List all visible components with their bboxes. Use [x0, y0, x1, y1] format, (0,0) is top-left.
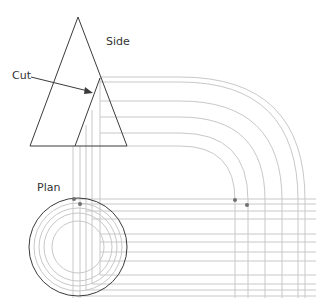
construction-lines — [34, 77, 316, 298]
label-side: Side — [106, 35, 130, 48]
cut-section — [75, 78, 100, 146]
dot-plan-1 — [72, 197, 76, 201]
cone-section-diagram: Side Cut Plan — [0, 0, 330, 308]
dot-grid-1 — [233, 198, 237, 202]
label-plan: Plan — [37, 181, 60, 194]
dot-grid-2 — [245, 203, 249, 207]
cut-arrow — [31, 77, 93, 94]
dot-plan-2 — [78, 202, 82, 206]
label-cut: Cut — [12, 69, 32, 82]
